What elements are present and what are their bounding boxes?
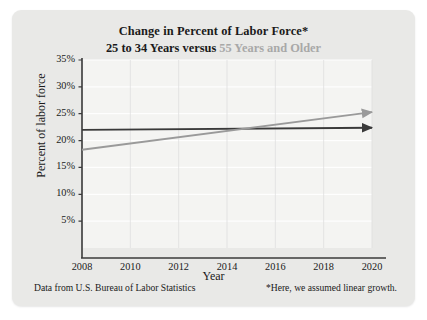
x-axis-tick-label: 2020 <box>349 261 395 272</box>
figure-card: Change in Percent of Labor Force* 25 to … <box>12 10 415 306</box>
y-axis-tick-label: 30% <box>35 80 75 91</box>
y-axis-tick-label: 35% <box>35 53 75 64</box>
assumption-footnote: *Here, we assumed linear growth. <box>266 282 397 293</box>
y-axis-tick-label: 20% <box>35 134 75 145</box>
x-axis-tick-label: 2016 <box>252 261 298 272</box>
data-source-note: Data from U.S. Bureau of Labor Statistic… <box>34 282 195 293</box>
plot-area: 5%10%15%20%25%30%35% 2008201020122014201… <box>12 10 415 306</box>
y-axis-tick-label: 25% <box>35 107 75 118</box>
x-axis-tick-label: 2014 <box>204 261 250 272</box>
y-axis-tick-label: 15% <box>35 160 75 171</box>
x-axis-tick-label: 2008 <box>59 261 105 272</box>
x-axis-tick-label: 2010 <box>107 261 153 272</box>
figure-footer: Data from U.S. Bureau of Labor Statistic… <box>12 282 415 302</box>
y-axis-tick-label: 5% <box>35 214 75 225</box>
x-axis-tick-label: 2012 <box>156 261 202 272</box>
y-axis-tick-label: 10% <box>35 187 75 198</box>
x-axis-tick-label: 2018 <box>301 261 347 272</box>
